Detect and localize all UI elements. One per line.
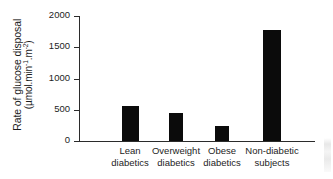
y-axis-tick-label: 0	[65, 134, 70, 145]
bar	[122, 106, 139, 141]
plot-area: 0500100015002000	[79, 16, 315, 141]
y-axis-tick-label: 2000	[49, 9, 70, 20]
x-axis-labels: LeandiabeticsOverweightdiabeticsObesedia…	[79, 145, 315, 175]
x-axis-category-label: Non-diabeticsubjects	[241, 145, 303, 168]
x-axis-category-line: subjects	[241, 157, 303, 169]
y-axis-units-prefix: (µmol.min	[23, 66, 34, 109]
y-axis-tick: 500	[74, 110, 79, 111]
y-axis-tick-label: 1000	[49, 72, 70, 83]
y-axis-tick-label: 1500	[49, 40, 70, 51]
scan-artifact	[324, 138, 331, 172]
bar	[215, 126, 229, 141]
bar	[169, 113, 183, 141]
y-axis-units-suffix: )	[23, 41, 34, 44]
y-axis-tick: 1000	[74, 79, 79, 80]
y-axis-units-mid: .m	[23, 50, 34, 61]
y-axis-title-line1: Rate of glucose disposal	[11, 19, 23, 131]
y-axis-units-sup1: -1	[22, 60, 29, 66]
y-axis-tick: 0	[74, 141, 79, 142]
x-axis-category-line: Non-diabetic	[241, 145, 303, 157]
y-axis-title: Rate of glucose disposal (µmol.min-1.m-2…	[0, 0, 46, 150]
bar-chart-figure: Rate of glucose disposal (µmol.min-1.m-2…	[0, 0, 333, 179]
y-axis-units-sup2: -2	[22, 44, 29, 50]
x-axis-line	[79, 141, 315, 142]
y-axis-tick: 2000	[74, 16, 79, 17]
y-axis-title-text: Rate of glucose disposal (µmol.min-1.m-2…	[11, 19, 35, 131]
y-axis-title-units: (µmol.min-1.m-2)	[23, 19, 35, 131]
y-axis-tick-label: 500	[54, 103, 70, 114]
y-axis-tick: 1500	[74, 47, 79, 48]
bar	[263, 30, 281, 141]
y-axis-line	[79, 16, 80, 142]
